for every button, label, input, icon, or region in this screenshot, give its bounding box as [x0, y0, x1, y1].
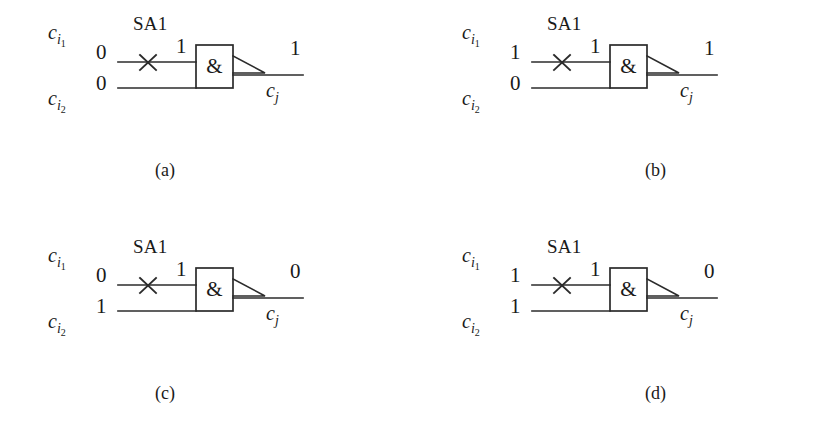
gate-symbol-b: &	[620, 54, 636, 78]
gate-symbol-c: &	[206, 277, 222, 301]
panel-caption-a: (a)	[155, 160, 175, 181]
fault-propagated-value-c: 1	[176, 259, 187, 280]
input-bottom-signal-label-d: ci2	[462, 311, 480, 338]
input-top-value-a: 0	[96, 42, 107, 63]
output-wedge	[647, 56, 679, 73]
panel-caption-b: (b)	[645, 160, 666, 181]
fault-propagated-value-a: 1	[176, 36, 187, 57]
input-top-signal-label-b: ci1	[462, 22, 480, 49]
fault-label-a: SA1	[133, 14, 167, 33]
input-bottom-signal-label-c: ci2	[48, 311, 66, 338]
input-top-value-b: 1	[510, 42, 521, 63]
output-value-a: 1	[290, 38, 301, 59]
input-bottom-value-c: 1	[96, 296, 107, 317]
panel-a: & ci1 ci2 0 0 SA1 1 1 cj (a)	[0, 0, 414, 223]
fault-propagated-value-b: 1	[590, 36, 601, 57]
output-value-b: 1	[704, 38, 715, 59]
output-signal-label-b: cj	[680, 80, 693, 105]
output-signal-label-d: cj	[680, 303, 693, 328]
fault-label-b: SA1	[547, 14, 581, 33]
panel-d: & ci1 ci2 1 1 SA1 1 0 cj (d)	[414, 223, 828, 446]
output-wedge	[233, 279, 265, 296]
input-top-signal-label-c: ci1	[48, 245, 66, 272]
input-top-signal-label-d: ci1	[462, 245, 480, 272]
gate-symbol-d: &	[620, 277, 636, 301]
fault-label-c: SA1	[133, 237, 167, 256]
output-signal-label-a: cj	[266, 80, 279, 105]
panel-c: & ci1 ci2 0 1 SA1 1 0 cj (c)	[0, 223, 414, 446]
panel-b: & ci1 ci2 1 0 SA1 1 1 cj (b)	[414, 0, 828, 223]
output-signal-label-c: cj	[266, 303, 279, 328]
panel-caption-d: (d)	[645, 383, 666, 404]
input-bottom-signal-label-a: ci2	[48, 88, 66, 115]
input-bottom-value-d: 1	[510, 296, 521, 317]
output-value-c: 0	[290, 261, 301, 282]
fault-label-d: SA1	[547, 237, 581, 256]
fault-simulation-figure: & ci1 ci2 0 0 SA1 1 1 cj (a)	[0, 0, 828, 446]
gate-symbol-a: &	[206, 54, 222, 78]
fault-propagated-value-d: 1	[590, 259, 601, 280]
input-bottom-value-a: 0	[96, 73, 107, 94]
output-value-d: 0	[704, 261, 715, 282]
output-wedge	[233, 56, 265, 73]
input-top-signal-label-a: ci1	[48, 22, 66, 49]
output-wedge	[647, 279, 679, 296]
input-bottom-signal-label-b: ci2	[462, 88, 480, 115]
input-top-value-c: 0	[96, 265, 107, 286]
input-top-value-d: 1	[510, 265, 521, 286]
panel-caption-c: (c)	[155, 383, 175, 404]
input-bottom-value-b: 0	[510, 73, 521, 94]
